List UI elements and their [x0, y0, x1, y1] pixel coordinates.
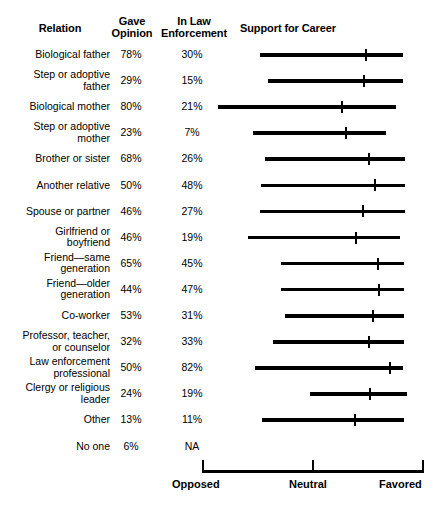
row-value-gave-opinion: 29% — [106, 75, 156, 87]
row-label-relation: Clergy or religiousleader — [4, 382, 110, 405]
row-value-in-law-enforcement: 47% — [158, 284, 226, 296]
row-value-in-law-enforcement: 15% — [158, 75, 226, 87]
table-row: Co-worker53%31% — [0, 303, 443, 329]
row-label-relation: Step or adoptivemother — [4, 121, 110, 144]
table-row: Friend—samegeneration65%45% — [0, 251, 443, 277]
row-label-relation-line2: generation — [4, 289, 110, 301]
row-value-in-law-enforcement: 82% — [158, 362, 226, 374]
column-header-gave-opinion-line2: Opinion — [104, 27, 160, 39]
row-label-relation: Biological father — [4, 49, 110, 61]
row-label-relation: Biological mother — [4, 101, 110, 113]
row-value-in-law-enforcement: 45% — [158, 258, 226, 270]
table-row: Friend—oldergeneration44%47% — [0, 277, 443, 303]
row-value-in-law-enforcement: 19% — [158, 232, 226, 244]
row-label-relation: Other — [4, 414, 110, 426]
table-row: Law enforcementprofessional50%82% — [0, 355, 443, 381]
table-row: Biological father78%30% — [0, 42, 443, 68]
row-label-relation: Brother or sister — [4, 153, 110, 165]
row-value-in-law-enforcement: 27% — [158, 206, 226, 218]
row-label-relation: Friend—samegeneration — [4, 252, 110, 275]
row-label-relation-line2: professional — [4, 368, 110, 380]
table-row: Biological mother80%21% — [0, 94, 443, 120]
table-row: Another relative50%48% — [0, 173, 443, 199]
row-value-gave-opinion: 78% — [106, 49, 156, 61]
row-value-gave-opinion: 6% — [106, 441, 156, 453]
table-row: Professor, teacher,or counselor32%33% — [0, 329, 443, 355]
table-row: Step or adoptivemother23%7% — [0, 120, 443, 146]
row-label-relation-line2: or counselor — [4, 342, 110, 354]
row-value-in-law-enforcement: NA — [158, 441, 226, 453]
table-row: Clergy or religiousleader24%19% — [0, 381, 443, 407]
table-row: Other13%11% — [0, 407, 443, 433]
column-header-gave-opinion-line1: Gave — [104, 15, 160, 27]
row-value-gave-opinion: 65% — [106, 258, 156, 270]
column-header-support-for-career: Support for Career — [240, 22, 410, 34]
axis-tick-opposed — [202, 460, 204, 471]
axis-label-opposed: Opposed — [172, 478, 220, 491]
row-label-relation-line2: boyfriend — [4, 237, 110, 249]
row-value-gave-opinion: 68% — [106, 153, 156, 165]
column-header-relation: Relation — [10, 22, 110, 34]
table-row: Step or adoptivefather29%15% — [0, 68, 443, 94]
row-value-in-law-enforcement: 21% — [158, 101, 226, 113]
table-row: Girlfriend orboyfriend46%19% — [0, 225, 443, 251]
support-for-career-figure: Relation Gave Opinion In Law Enforcement… — [0, 0, 443, 511]
row-label-relation: Co-worker — [4, 310, 110, 322]
row-label-relation: Spouse or partner — [4, 206, 110, 218]
row-value-in-law-enforcement: 30% — [158, 49, 226, 61]
row-label-relation: Friend—oldergeneration — [4, 278, 110, 301]
row-label-relation-line2: father — [4, 81, 110, 93]
axis-label-neutral: Neutral — [289, 478, 327, 491]
row-value-gave-opinion: 46% — [106, 206, 156, 218]
axis-tick-favored — [422, 460, 424, 471]
column-header-in-law-enforcement-line1: In Law — [158, 15, 230, 27]
row-value-gave-opinion: 80% — [106, 101, 156, 113]
table-row: Spouse or partner46%27% — [0, 199, 443, 225]
column-header-in-law-enforcement-line2: Enforcement — [158, 27, 230, 39]
row-value-gave-opinion: 50% — [106, 362, 156, 374]
row-label-relation: No one — [4, 441, 110, 453]
table-row: No one6%NA — [0, 434, 443, 460]
row-value-in-law-enforcement: 31% — [158, 310, 226, 322]
row-value-gave-opinion: 50% — [106, 180, 156, 192]
column-header-gave-opinion: Gave Opinion — [104, 15, 160, 39]
row-label-relation: Professor, teacher,or counselor — [4, 330, 110, 353]
row-label-relation: Girlfriend orboyfriend — [4, 226, 110, 249]
row-label-relation-line2: mother — [4, 133, 110, 145]
row-label-relation: Step or adoptivefather — [4, 69, 110, 92]
row-value-gave-opinion: 46% — [106, 232, 156, 244]
column-header-in-law-enforcement: In Law Enforcement — [158, 15, 230, 39]
row-label-relation-line2: leader — [4, 394, 110, 406]
row-value-gave-opinion: 13% — [106, 414, 156, 426]
row-label-relation-line2: generation — [4, 263, 110, 275]
row-value-gave-opinion: 32% — [106, 336, 156, 348]
row-value-gave-opinion: 44% — [106, 284, 156, 296]
axis-label-favored: Favored — [379, 478, 422, 491]
row-value-gave-opinion: 24% — [106, 388, 156, 400]
row-value-in-law-enforcement: 7% — [158, 127, 226, 139]
row-value-gave-opinion: 53% — [106, 310, 156, 322]
row-label-relation: Another relative — [4, 180, 110, 192]
row-value-in-law-enforcement: 11% — [158, 414, 226, 426]
row-value-gave-opinion: 23% — [106, 127, 156, 139]
row-value-in-law-enforcement: 33% — [158, 336, 226, 348]
row-value-in-law-enforcement: 19% — [158, 388, 226, 400]
row-value-in-law-enforcement: 48% — [158, 180, 226, 192]
row-label-relation: Law enforcementprofessional — [4, 356, 110, 379]
table-row: Brother or sister68%26% — [0, 146, 443, 172]
row-value-in-law-enforcement: 26% — [158, 153, 226, 165]
axis-tick-neutral — [312, 460, 314, 471]
